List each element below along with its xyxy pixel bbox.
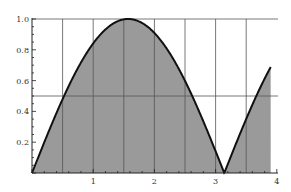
y-tick-label: 0.2: [16, 138, 29, 147]
x-tick-label: 4: [274, 177, 279, 186]
y-tick-label: 0.6: [16, 77, 29, 86]
y-tick-label: 0.4: [16, 107, 29, 116]
x-tick-label: 1: [91, 177, 96, 186]
x-tick-label: 3: [213, 177, 218, 186]
area-chart: 0.20.40.60.81.01234: [0, 0, 291, 192]
y-tick-label: 1.0: [16, 15, 29, 24]
y-tick-label: 0.8: [16, 46, 29, 55]
x-tick-label: 2: [152, 177, 157, 186]
